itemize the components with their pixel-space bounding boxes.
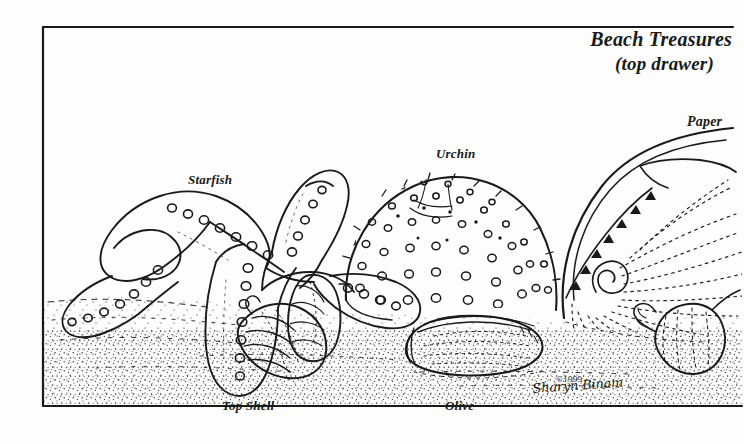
label-urchin: Urchin [436,146,476,162]
label-olive: Olive [445,398,474,414]
label-paper: Paper [687,114,722,130]
illustration-page: Beach Treasures (top drawer) Starfish Ur… [0,0,744,444]
sea-urchin-figure [339,173,560,320]
label-starfish: Starfish [188,172,232,188]
page-title-line1: Beach Treasures [590,28,732,51]
page-title-line2: (top drawer) [615,53,714,75]
label-top-shell: Top Shell [222,398,274,414]
